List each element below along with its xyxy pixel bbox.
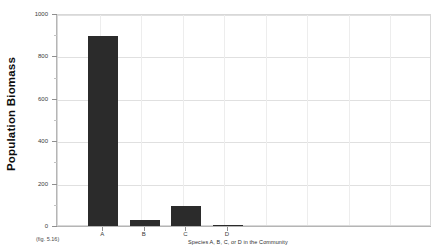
y-axis-minor-tick-mark bbox=[54, 120, 57, 121]
y-axis-minor-tick-mark bbox=[54, 78, 57, 79]
gridline-vertical bbox=[183, 15, 184, 225]
y-axis-title-container: Population Biomass bbox=[0, 0, 22, 228]
x-axis-tick-label-a: A bbox=[100, 231, 104, 237]
gridline-vertical bbox=[266, 15, 267, 225]
y-axis-tick-label: 1000 bbox=[35, 11, 48, 17]
bar-c bbox=[171, 206, 201, 227]
gridline-horizontal bbox=[58, 15, 430, 16]
y-axis-tick-label: 200 bbox=[38, 181, 48, 187]
y-axis-tick-label: 400 bbox=[38, 138, 48, 144]
y-axis-tick-mark bbox=[52, 99, 57, 100]
y-axis-minor-tick-mark bbox=[54, 35, 57, 36]
x-axis-caption: Species A, B, C, or D in the Community bbox=[188, 239, 288, 245]
y-axis-minor-tick-mark bbox=[54, 205, 57, 206]
y-axis-tick-label: 800 bbox=[38, 53, 48, 59]
gridline-vertical bbox=[390, 15, 391, 225]
plot-area bbox=[57, 14, 431, 226]
y-axis-tick-mark bbox=[52, 226, 57, 227]
bar-chart-figure: Population Biomass (fig. 5.16) Species A… bbox=[0, 0, 440, 250]
x-axis-tick-label-b: B bbox=[142, 231, 146, 237]
y-axis-tick-label: 0 bbox=[45, 223, 48, 229]
x-axis-tick-label-c: C bbox=[183, 231, 187, 237]
gridline-vertical bbox=[141, 15, 142, 225]
gridline-vertical bbox=[224, 15, 225, 225]
x-axis-tick-label-d: D bbox=[225, 231, 229, 237]
y-axis-title: Population Biomass bbox=[5, 57, 17, 171]
y-axis-tick-mark bbox=[52, 56, 57, 57]
y-axis-tick-mark bbox=[52, 184, 57, 185]
gridline-vertical bbox=[349, 15, 350, 225]
y-axis-tick-mark bbox=[52, 14, 57, 15]
x-axis-spine bbox=[56, 226, 431, 227]
figure-reference-label: (fig. 5.16) bbox=[36, 236, 59, 242]
y-axis-tick-label: 600 bbox=[38, 96, 48, 102]
y-axis-minor-tick-mark bbox=[54, 162, 57, 163]
gridline-vertical bbox=[307, 15, 308, 225]
y-axis-tick-mark bbox=[52, 141, 57, 142]
bar-a bbox=[88, 36, 118, 227]
